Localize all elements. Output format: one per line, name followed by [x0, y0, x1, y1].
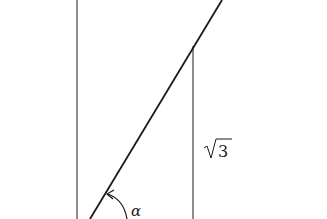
diagram-canvas: 3 α	[0, 0, 327, 219]
side-length-label: 3	[204, 139, 232, 161]
side-length-value: 3	[218, 142, 228, 161]
angle-label: α	[131, 202, 141, 219]
diagonal-line	[90, 0, 222, 219]
